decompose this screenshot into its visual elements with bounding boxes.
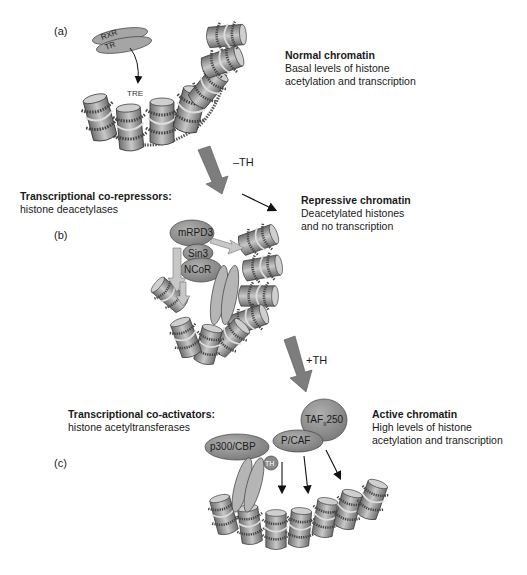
minus-th-label: –TH bbox=[233, 156, 254, 168]
chromatin-diagram: RXR TR TRE bbox=[0, 0, 527, 575]
corepressor-sub: histone deacetylases bbox=[20, 203, 118, 216]
panel-c-label: (c) bbox=[54, 457, 67, 469]
th-ligand-label: TH bbox=[265, 458, 274, 471]
tre-label: TRE bbox=[127, 89, 143, 98]
panel-a-label: (a) bbox=[54, 25, 67, 37]
repressive-chromatin-line2: and no transcription bbox=[301, 220, 393, 233]
mrpd3-label: mRPD3 bbox=[178, 227, 213, 240]
rxr-tr-dimer-a: RXR TR TRE bbox=[91, 24, 153, 98]
normal-chromatin-line2: acetylation and transcription bbox=[285, 75, 416, 88]
coactivator-sub: histone acetyltransferases bbox=[68, 421, 190, 434]
active-chromatin-line1: High levels of histone bbox=[372, 421, 472, 434]
corepressor-title: Transcriptional co-repressors: bbox=[20, 190, 172, 203]
normal-chromatin-line1: Basal levels of histone bbox=[285, 62, 389, 75]
repressive-chromatin-title: Repressive chromatin bbox=[301, 194, 411, 207]
ncor-label: NCoR bbox=[184, 264, 211, 277]
nucleosome-array-c bbox=[206, 476, 392, 549]
normal-chromatin-title: Normal chromatin bbox=[285, 49, 375, 62]
panel-b-label: (b) bbox=[54, 229, 67, 241]
diagram-graphics: RXR TR TRE bbox=[0, 0, 527, 575]
taf250-label: TAFII250 bbox=[305, 414, 343, 431]
pcaf-label: P/CAF bbox=[281, 435, 310, 448]
repressive-chromatin-line1: Deacetylated histones bbox=[301, 207, 404, 220]
plus-th-label: +TH bbox=[306, 354, 327, 366]
active-chromatin-line2: acetylation and transcription bbox=[372, 434, 503, 447]
sin3-label: Sin3 bbox=[188, 248, 208, 261]
active-chromatin-title: Active chromatin bbox=[372, 408, 457, 421]
p300-cbp-label: p300/CBP bbox=[210, 441, 256, 454]
coactivator-title: Transcriptional co-activators: bbox=[68, 408, 215, 421]
